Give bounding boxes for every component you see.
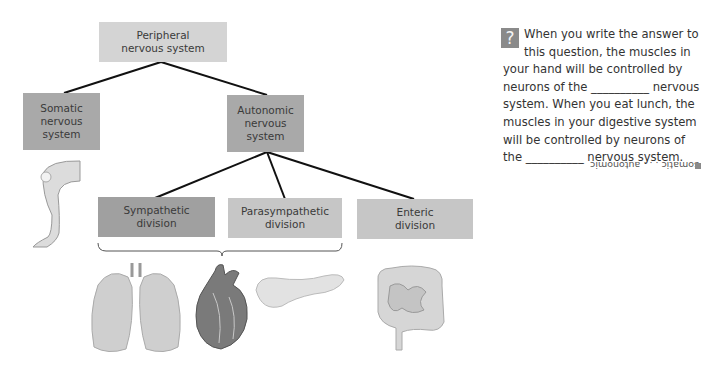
inverted-answer: somatic . . . autonomic [590,160,699,171]
intestines-illustration [372,262,448,354]
question-mark-icon: ? [501,28,519,48]
heart-illustration [193,263,253,355]
autonomic-nervous-system-box: Autonomic nervous system [227,95,304,152]
answer-square-icon [695,163,701,169]
peripheral-nervous-system-box: Peripheral nervous system [99,22,227,62]
bracket [98,243,342,256]
parasympathetic-division-box: Parasympathetic division [228,198,342,238]
sympathetic-division-box: Sympathetic division [98,197,215,237]
question-panel: ? When you write the answer to this ques… [503,26,701,167]
lungs-illustration [88,263,184,359]
pancreas-illustration [254,272,346,312]
question-text: When you write the answer to this questi… [503,27,699,164]
leg-illustration [30,155,85,250]
enteric-division-box: Enteric division [357,199,473,239]
somatic-nervous-system-box: Somatic nervous system [23,93,100,150]
